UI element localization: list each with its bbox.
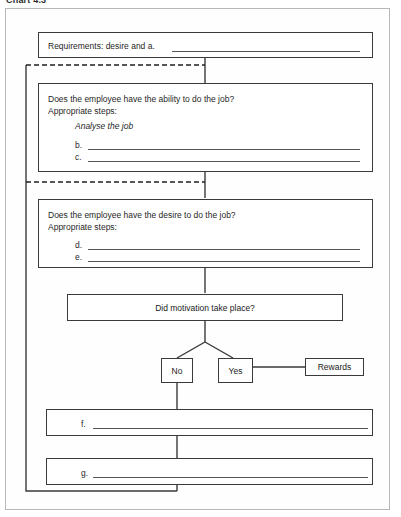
step-f-label: f. [81, 419, 86, 429]
box-no[interactable]: No [161, 358, 193, 383]
wire-branch-to-no [177, 342, 205, 358]
desire-question: Does the employee have the desire to do … [48, 210, 236, 220]
step-g-blank[interactable] [93, 477, 368, 478]
rewards-label: Rewards [318, 362, 352, 372]
ability-given-step: Analyse the job [75, 121, 133, 131]
no-label: No [172, 366, 183, 376]
step-g-label: g. [81, 468, 88, 478]
box-yes[interactable]: Yes [218, 358, 253, 383]
ability-item-c-label: c. [75, 152, 82, 162]
box-desire: Does the employee have the desire to do … [38, 199, 373, 268]
desire-item-e-label: e. [75, 252, 82, 262]
box-ability: Does the employee have the ability to do… [38, 83, 373, 172]
step-f-blank[interactable] [93, 428, 368, 429]
desire-item-d-blank[interactable] [88, 249, 360, 250]
wire-branch-to-yes [205, 342, 233, 358]
desire-steps-label: Appropriate steps: [48, 222, 117, 232]
box-requirements: Requirements: desire and a. [38, 32, 373, 58]
ability-steps-label: Appropriate steps: [48, 106, 117, 116]
desire-item-e-blank[interactable] [88, 261, 360, 262]
ability-item-c-blank[interactable] [88, 161, 360, 162]
motivation-question: Did motivation take place? [68, 295, 342, 320]
desire-item-d-label: d. [75, 240, 82, 250]
box-step-g: g. [46, 458, 373, 485]
ability-item-b-label: b. [75, 140, 82, 150]
requirements-blank[interactable] [172, 51, 360, 52]
box-step-f: f. [46, 409, 373, 436]
ability-question: Does the employee have the ability to do… [48, 94, 234, 104]
diagram-page: Chart 4.3 Requirements: desire and a. [0, 0, 401, 517]
ability-item-b-blank[interactable] [88, 149, 360, 150]
yes-label: Yes [229, 366, 243, 376]
requirements-label: Requirements: desire and a. [48, 41, 155, 51]
box-motivation: Did motivation take place? [67, 294, 343, 321]
box-rewards[interactable]: Rewards [305, 358, 364, 376]
